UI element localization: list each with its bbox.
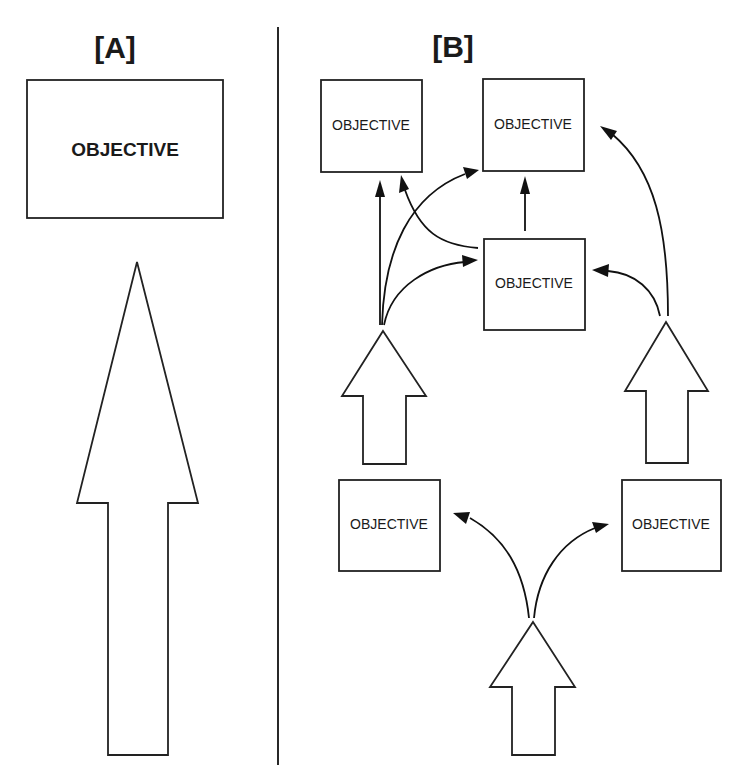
arrowhead-icon [592, 522, 609, 533]
panel-b-label: [B] [432, 30, 474, 63]
objective-label-a: OBJECTIVE [71, 139, 179, 160]
panel-b: OBJECTIVE OBJECTIVE OBJECTIVE OBJECTIVE … [321, 79, 721, 755]
objective-label-middle: OBJECTIVE [495, 275, 573, 291]
arrowhead-icon [520, 176, 530, 194]
panel-a: OBJECTIVE [27, 80, 223, 755]
block-arrow-left [342, 331, 426, 464]
diagram-canvas: [A] [B] OBJECTIVE OBJECTIVE OBJECTIVE OB… [0, 0, 748, 780]
connector-left-to-middle [384, 262, 465, 325]
arrowhead-icon [399, 175, 409, 193]
objective-label-top-right: OBJECTIVE [494, 116, 572, 132]
large-up-arrow [77, 262, 198, 755]
block-arrow-right [625, 322, 708, 463]
panel-a-label: [A] [94, 31, 136, 64]
connector-left-to-topright [382, 174, 465, 325]
arrowhead-icon [592, 264, 609, 277]
arrowhead-icon [463, 167, 479, 179]
connector-bottom-to-bottomright [534, 528, 595, 618]
objective-label-bottom-left: OBJECTIVE [350, 516, 428, 532]
objective-label-top-left: OBJECTIVE [332, 117, 410, 133]
objective-label-bottom-right: OBJECTIVE [632, 516, 710, 532]
arrowhead-icon [375, 180, 385, 197]
connector-bottom-to-bottomleft [470, 518, 529, 618]
connector-right-to-middle [608, 271, 660, 316]
connector-middle-to-topleft [405, 190, 478, 248]
arrowhead-icon [462, 255, 478, 267]
arrowhead-icon [600, 126, 617, 140]
arrowhead-icon [453, 512, 470, 524]
block-arrow-bottom [490, 622, 575, 755]
connector-right-to-topright [612, 134, 668, 316]
